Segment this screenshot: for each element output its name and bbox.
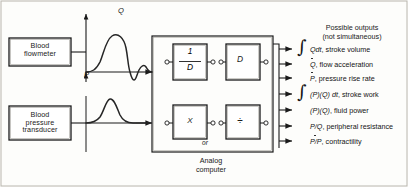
terminal-node-1d-in (165, 60, 169, 64)
terminal-node-div-in (219, 121, 223, 125)
output-item-6: P/Q, peripheral resistance (310, 122, 393, 131)
integral-sign-1: ∫ (297, 38, 306, 56)
divider-symbol: ÷ (225, 116, 255, 127)
pressure-waveform (86, 99, 150, 123)
differentiator-symbol: D (225, 55, 255, 64)
output-expr-7: P/P (310, 137, 322, 146)
output-item-1: Qdt, stroke volume (310, 45, 370, 54)
multiplier-symbol: X (176, 117, 204, 125)
output-desc-1: , stroke volume (322, 45, 371, 54)
terminal-node-1d-out (211, 60, 215, 64)
terminal-node-div-out (264, 121, 268, 125)
q-axis-label: Q (118, 7, 124, 15)
blood-flowmeter-label: Blood flowmeter (10, 42, 70, 57)
p-axis-label: P (84, 71, 89, 79)
integral-sign-2: ∫ (297, 83, 306, 101)
terminal-node-d-in (219, 60, 223, 64)
outputs-title-line-1: Possible outputs (300, 23, 404, 32)
or-label: or (202, 140, 208, 147)
output-expr-4: (P)(Q) dt (310, 90, 338, 99)
bpt-line-3: transducer (10, 126, 70, 134)
outputs-title-line-2: (not simultaneous) (300, 32, 404, 41)
blood-flowmeter-line-2: flowmeter (10, 50, 70, 58)
analog-computer-caption: Analog computer (178, 156, 244, 174)
output-bus (273, 44, 279, 148)
flow-waveform (86, 35, 152, 80)
terminal-node-x-out (211, 121, 215, 125)
output-item-5: (P)(Q), fluid power (310, 106, 369, 115)
diagram-canvas: Blood flowmeter Blood pressure transduce… (0, 0, 408, 187)
output-item-2: Q, flow acceleration (310, 60, 373, 69)
output-desc-3: , pressure rise rate (315, 74, 375, 83)
terminal-node-x-in (165, 121, 169, 125)
output-desc-2: , flow acceleration (316, 60, 374, 69)
outputs-title: Possible outputs (not simultaneous) (300, 23, 404, 42)
output-desc-4: , stroke work (338, 90, 379, 99)
output-item-3: P, pressure rise rate (310, 74, 375, 83)
output-expr-2: Q (310, 60, 316, 69)
output-expr-1: Qdt (310, 45, 322, 54)
output-expr-3: P (310, 74, 315, 83)
blood-pressure-transducer-label: Blood pressure transducer (10, 111, 70, 134)
output-expr-6: P/Q (310, 122, 322, 131)
output-desc-5: , fluid power (330, 106, 369, 115)
analog-caption-line-1: Analog (178, 156, 244, 165)
integrator-denominator: D (176, 62, 204, 72)
output-expr-5: (P)(Q) (310, 106, 330, 115)
output-desc-7: , contractility (322, 137, 362, 146)
terminal-node-d-out (264, 60, 268, 64)
analog-caption-line-2: computer (178, 165, 244, 174)
output-desc-6: , peripheral resistance (322, 122, 393, 131)
output-item-4: (P)(Q) dt, stroke work (310, 90, 379, 99)
output-item-7: P/P, contractility (310, 137, 362, 146)
integrator-numerator: 1 (176, 46, 204, 56)
output-arrows (279, 49, 292, 141)
